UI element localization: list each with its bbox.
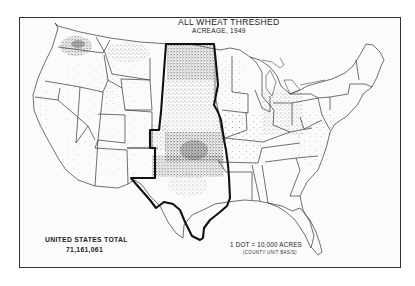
map-subtitle: ACREAGE, 1949 bbox=[192, 27, 246, 34]
legend-dot-value: 1 DOT = 10,000 ACRES bbox=[230, 241, 302, 248]
us-total-value: 71,161,061 bbox=[66, 246, 103, 253]
us-total-label: UNITED STATES TOTAL bbox=[45, 236, 128, 243]
dot-density-layer bbox=[36, 36, 335, 197]
us-wheat-dot-map bbox=[0, 0, 415, 286]
legend-basis: (COUNTY UNIT BASIS) bbox=[243, 250, 297, 255]
map-title: ALL WHEAT THRESHED bbox=[178, 17, 318, 27]
